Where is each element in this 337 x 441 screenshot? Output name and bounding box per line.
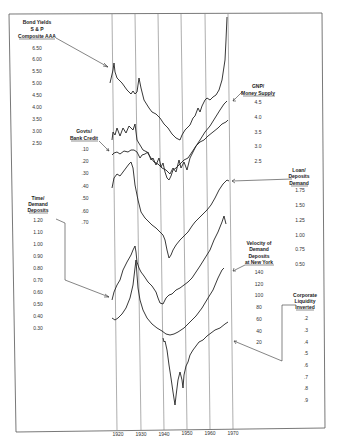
axis-title-line: GNP/ (252, 83, 265, 89)
chart-canvas: 1920 1930 1940 1950 1960 1970 Bond Yield… (0, 0, 337, 441)
x-tick-1970: 1970 (227, 430, 238, 436)
axis-govts-bank-credit: Govts/ Bank Credit .10 .20 .30 .40 .50 .… (70, 128, 109, 225)
y-tick: .6 (304, 362, 308, 368)
arrow-icon (234, 305, 296, 361)
y-tick: .3 (304, 327, 308, 333)
y-tick: 5.00 (32, 80, 42, 86)
x-tick-1960: 1960 (204, 430, 215, 436)
series-gnp-money-supply (112, 101, 227, 174)
y-tick: 1.75 (295, 187, 305, 193)
axis-title-line: Inverted (295, 304, 314, 310)
y-tick: 140 (255, 269, 264, 275)
axis-title-line: at New York (245, 259, 273, 265)
axis-bond-yields: Bond Yields S & P Composite AAA 6.50 6.0… (18, 19, 108, 146)
axis-title-line: Money Supply (241, 90, 275, 96)
y-tick: 5.50 (32, 68, 42, 74)
axis-title-line: Bond Yields (23, 19, 52, 25)
y-tick: 2.5 (255, 158, 262, 164)
series-bond-yields (110, 17, 227, 140)
y-tick: 2.50 (32, 140, 42, 146)
axis-title-line: Govts/ (76, 128, 92, 134)
y-tick: 3.0 (255, 143, 262, 149)
axis-velocity-demand-deposits: Velocity of Demand Deposits at New York … (233, 240, 274, 345)
y-tick: .4 (304, 339, 308, 345)
series-govts-bank-credit (112, 120, 228, 180)
y-tick: 0.80 (33, 265, 43, 271)
axis-title-line: S & P (30, 26, 44, 32)
arrowhead-icon (103, 63, 108, 67)
y-tick: 3.00 (32, 128, 42, 134)
y-tick: 4.5 (255, 99, 262, 105)
y-tick: 6.00 (32, 56, 42, 62)
y-tick: 0.60 (33, 289, 43, 295)
y-tick: .2 (304, 315, 308, 321)
axis-title-line: Deposits (27, 207, 48, 213)
y-tick: 4.0 (255, 114, 262, 120)
y-tick: .50 (82, 195, 89, 201)
axis-title-line: Composite AAA (18, 33, 56, 39)
y-tick: 0.50 (33, 301, 43, 307)
y-tick: 120 (255, 281, 264, 287)
y-tick: 40 (256, 328, 262, 334)
arrow-icon (56, 38, 108, 67)
y-tick: 0.75 (295, 246, 305, 252)
arrow-icon (233, 265, 245, 271)
y-tick: 3.50 (32, 116, 42, 122)
y-tick: .70 (82, 219, 89, 225)
y-tick: 60 (256, 316, 262, 322)
y-tick: .40 (82, 183, 89, 189)
y-tick: .10 (82, 146, 89, 152)
y-tick: 1.10 (33, 229, 43, 235)
y-tick: 1.00 (33, 241, 43, 247)
y-tick: 3.5 (255, 129, 262, 135)
chart-frame (9, 13, 325, 432)
axis-title-line: Demand (289, 180, 309, 186)
decade-gridlines (112, 14, 233, 430)
axis-title-line: Demand (249, 246, 269, 252)
y-tick: .7 (304, 374, 308, 380)
axis-time-demand-deposits: Time/ Demand Deposits 1.20 1.10 1.00 0.9… (27, 195, 109, 331)
y-tick: .8 (304, 385, 308, 391)
y-tick: 100 (255, 292, 264, 298)
x-tick-1930: 1930 (135, 431, 146, 437)
y-tick: .20 (82, 158, 89, 164)
axis-gnp-money-supply: GNP/ Money Supply 4.5 4.0 3.5 3.0 2.5 (233, 83, 275, 164)
series-time-demand-deposits (112, 216, 226, 304)
x-tick-1950: 1950 (181, 430, 192, 436)
y-tick: 0.70 (33, 277, 43, 283)
x-tick-1920: 1920 (112, 431, 123, 437)
y-tick: .9 (304, 397, 308, 403)
axis-title-line: Bank Credit (70, 135, 98, 141)
y-tick: 1.25 (295, 217, 305, 223)
arrow-icon (99, 141, 109, 151)
arrow-icon (233, 91, 243, 101)
axis-title-line: Deposits (288, 173, 309, 179)
arrow-icon (56, 219, 109, 297)
y-tick: .5 (304, 350, 308, 356)
axis-corporate-liquidity: Corporate Liquidity Inverted .2 .3 .4 .5… (234, 292, 317, 403)
y-tick: .60 (82, 208, 89, 214)
y-tick: .30 (82, 170, 89, 176)
axis-loan-deposits-demand: Loan/ Deposits Demand 1.75 1.50 1.25 1.0… (232, 167, 310, 267)
y-tick: 4.50 (32, 92, 42, 98)
y-tick: 0.30 (33, 325, 43, 331)
y-tick: 6.50 (32, 45, 42, 51)
y-tick: 20 (256, 339, 262, 345)
y-tick: 1.00 (295, 232, 305, 238)
y-tick: 4.00 (32, 104, 42, 110)
arrow-icon (232, 179, 292, 181)
y-tick: 0.50 (295, 261, 305, 267)
x-tick-1940: 1940 (158, 431, 169, 437)
y-tick: 0.90 (33, 253, 43, 259)
x-axis-labels: 1920 1930 1940 1950 1960 1970 (112, 430, 238, 437)
y-tick: 1.50 (295, 202, 305, 208)
series-velocity-demand-deposits (112, 260, 224, 335)
y-tick: 1.20 (33, 217, 43, 223)
y-tick: 0.40 (33, 313, 43, 319)
y-tick: 80 (256, 304, 262, 310)
